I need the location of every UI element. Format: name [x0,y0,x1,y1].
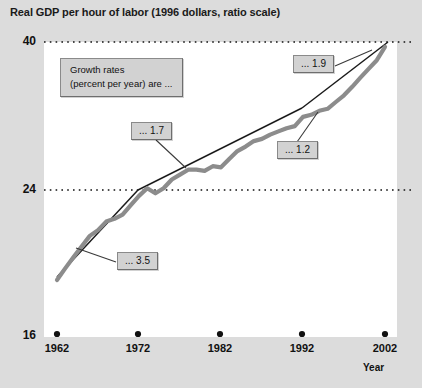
ytick-label-24: 24 [8,182,36,196]
callout-growth-rate-19: ... 1.9 [293,55,334,73]
xtick-label-1992: 1992 [277,342,327,354]
xtick-dot-1972 [135,331,141,337]
growth-rates-note-line2: (percent per year) are ... [70,77,172,91]
callout-growth-rate-17: ... 1.7 [131,122,172,140]
ytick-label-40: 40 [8,34,36,48]
xtick-dot-2002 [382,331,388,337]
callout-growth-rate-35: ... 3.5 [117,252,158,270]
callout-growth-rate-12: ... 1.2 [277,141,318,159]
x-axis-title: Year [363,362,384,373]
leader-line-17 [156,140,186,168]
xtick-label-1972: 1972 [113,342,163,354]
xtick-dot-1992 [299,331,305,337]
growth-rates-note: Growth rates (percent per year) are ... [60,58,183,97]
leader-line-35 [76,248,116,262]
growth-rates-note-line1: Growth rates [70,63,172,77]
trendline-1992-2002 [302,42,388,108]
ytick-label-16: 16 [8,328,36,342]
xtick-label-1982: 1982 [195,342,245,354]
xtick-dot-1982 [217,331,223,337]
xtick-label-1962: 1962 [32,342,82,354]
xtick-label-2002: 2002 [360,342,410,354]
chart-figure: Real GDP per hour of labor (1996 dollars… [0,0,422,388]
xtick-dot-1962 [54,331,60,337]
